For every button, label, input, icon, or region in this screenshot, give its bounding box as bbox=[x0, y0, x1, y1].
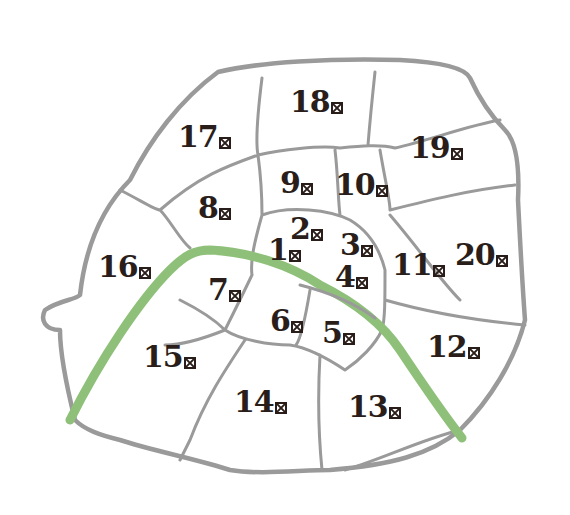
e-box-icon bbox=[229, 290, 241, 302]
label-arr-11[interactable]: 11 bbox=[392, 250, 445, 280]
label-arr-17[interactable]: 17 bbox=[178, 122, 231, 152]
e-box-icon bbox=[468, 347, 480, 359]
label-arr-5[interactable]: 5 bbox=[322, 318, 355, 348]
label-arr-8[interactable]: 8 bbox=[198, 193, 231, 223]
e-box-icon bbox=[376, 185, 388, 197]
e-box-icon bbox=[139, 267, 151, 279]
e-box-icon bbox=[343, 333, 355, 345]
e-box-icon bbox=[219, 137, 231, 149]
e-box-icon bbox=[361, 245, 373, 257]
e-box-icon bbox=[184, 357, 196, 369]
label-arr-19[interactable]: 19 bbox=[410, 133, 463, 163]
e-box-icon bbox=[311, 229, 323, 241]
label-arr-20[interactable]: 20 bbox=[455, 240, 508, 270]
label-arr-7[interactable]: 7 bbox=[208, 275, 241, 305]
e-box-icon bbox=[389, 407, 401, 419]
e-box-icon bbox=[451, 148, 463, 160]
label-arr-18[interactable]: 18 bbox=[290, 87, 343, 117]
label-arr-15[interactable]: 15 bbox=[143, 342, 196, 372]
label-arr-10[interactable]: 10 bbox=[335, 170, 388, 200]
e-box-icon bbox=[289, 250, 301, 262]
e-box-icon bbox=[219, 208, 231, 220]
label-arr-6[interactable]: 6 bbox=[270, 306, 303, 336]
label-arr-2[interactable]: 2 bbox=[290, 214, 323, 244]
e-box-icon bbox=[301, 183, 313, 195]
e-box-icon bbox=[275, 402, 287, 414]
e-box-icon bbox=[331, 102, 343, 114]
label-arr-14[interactable]: 14 bbox=[234, 387, 287, 417]
e-box-icon bbox=[496, 255, 508, 267]
e-box-icon bbox=[433, 265, 445, 277]
label-arr-13[interactable]: 13 bbox=[348, 392, 401, 422]
label-arr-16[interactable]: 16 bbox=[98, 252, 151, 282]
label-arr-9[interactable]: 9 bbox=[280, 168, 313, 198]
label-arr-3[interactable]: 3 bbox=[340, 230, 373, 260]
label-arr-12[interactable]: 12 bbox=[427, 332, 480, 362]
label-arr-4[interactable]: 4 bbox=[335, 262, 368, 292]
e-box-icon bbox=[291, 321, 303, 333]
e-box-icon bbox=[356, 277, 368, 289]
